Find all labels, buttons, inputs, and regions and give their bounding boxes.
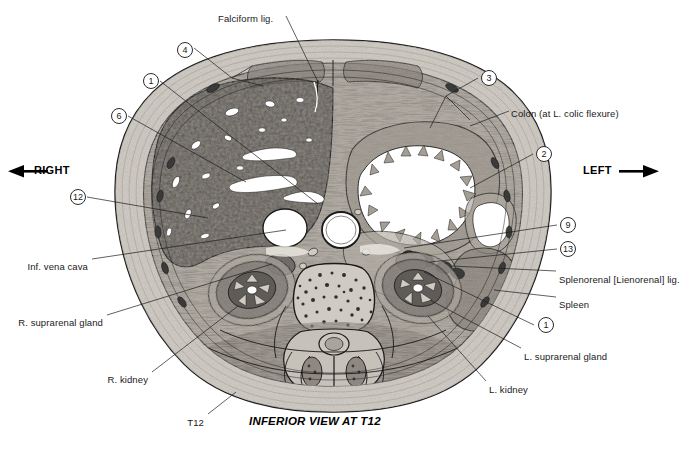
structure-label-splenorenal: Splenorenal [Lienorenal] lig.	[559, 275, 680, 285]
structure-label-l-kidney: L. kidney	[489, 385, 528, 395]
callout-number-3[interactable]: 3	[481, 70, 497, 86]
callout-number-2[interactable]: 2	[536, 146, 552, 162]
figure-caption: INFERIOR VIEW AT T12	[249, 415, 381, 427]
direction-label-right: RIGHT	[34, 165, 70, 176]
callout-number-1[interactable]: 1	[538, 317, 554, 333]
callout-number-6[interactable]: 6	[111, 108, 127, 124]
callout-number-1[interactable]: 1	[143, 73, 159, 89]
arrow-right-icon	[619, 165, 659, 178]
callout-number-9[interactable]: 9	[560, 217, 576, 233]
structure-label-r-kidney: R. kidney	[107, 375, 148, 385]
structure-label-t12: T12	[187, 418, 204, 428]
structure-label-colon: Colon (at L. colic flexure)	[511, 109, 619, 119]
structure-label-l-suprarenal: L. suprarenal gland	[524, 352, 607, 362]
small-vessel	[355, 209, 362, 215]
inferior-vena-cava	[263, 209, 307, 247]
callout-number-4[interactable]: 4	[177, 42, 193, 58]
structure-label-r-suprarenal: R. suprarenal gland	[18, 318, 103, 328]
callout-number-13[interactable]: 13	[560, 241, 576, 257]
structure-label-ivc: Inf. vena cava	[27, 262, 88, 272]
direction-label-left: LEFT	[583, 165, 612, 176]
structure-label-falciform: Falciform lig.	[218, 14, 273, 24]
callout-number-12[interactable]: 12	[70, 189, 86, 205]
structure-label-spleen: Spleen	[559, 300, 589, 310]
